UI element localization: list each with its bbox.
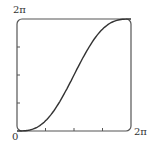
plot-area [0, 0, 150, 149]
origin-label: 0 [12, 131, 18, 142]
y-max-label: 2π [13, 4, 26, 15]
data-line [17, 19, 131, 131]
x-max-label: 2π [134, 126, 147, 137]
ticks [17, 47, 103, 131]
